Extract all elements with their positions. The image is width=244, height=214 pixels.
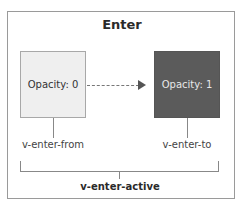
state-label-from: Opacity: 0 bbox=[28, 79, 79, 90]
bracket-center-tick bbox=[119, 172, 120, 179]
connector-to bbox=[187, 118, 188, 138]
connector-from bbox=[53, 118, 54, 138]
state-label-to: Opacity: 1 bbox=[162, 79, 213, 90]
arrow-right-icon bbox=[138, 80, 146, 90]
diagram-title: Enter bbox=[0, 17, 244, 32]
active-span-bracket bbox=[20, 161, 219, 172]
state-box-opacity-1: Opacity: 1 bbox=[154, 51, 220, 118]
class-label-enter-active: v-enter-active bbox=[0, 181, 240, 192]
state-box-opacity-0: Opacity: 0 bbox=[20, 51, 86, 118]
class-label-enter-from: v-enter-from bbox=[3, 139, 103, 150]
class-label-enter-to: v-enter-to bbox=[137, 139, 237, 150]
transition-arrow-line bbox=[87, 85, 139, 86]
